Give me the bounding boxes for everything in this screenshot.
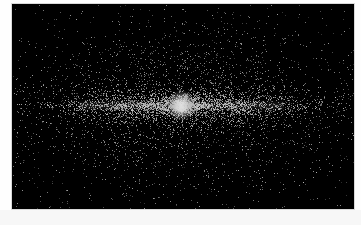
galaxy-particle-canvas bbox=[12, 4, 354, 209]
galaxy-image bbox=[12, 4, 354, 209]
bottom-margin bbox=[0, 210, 361, 225]
image-frame bbox=[0, 0, 361, 225]
